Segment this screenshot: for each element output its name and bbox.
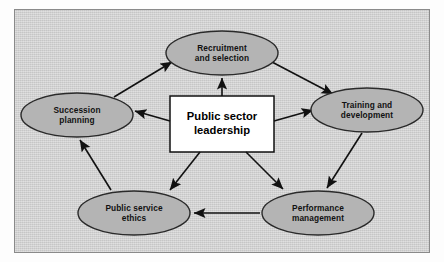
edge-center-to-performance [246,152,283,189]
center-box [170,96,274,152]
diagram-graphics [0,0,444,262]
edge-center-to-training [274,110,313,121]
node-ethics[interactable] [78,191,190,235]
edge-succession-to-recruitment [114,62,172,97]
node-training[interactable] [311,88,423,132]
edge-center-to-succession [135,111,170,121]
figure-canvas: Recruitment and selection Training and d… [0,0,444,262]
center-box-rect [170,96,274,152]
node-performance[interactable] [262,191,374,235]
edge-ethics-to-succession [80,140,111,190]
node-succession[interactable] [21,93,133,137]
node-recruitment[interactable] [166,31,278,75]
edge-training-to-performance [327,133,362,188]
edge-center-to-ethics [170,152,200,190]
edge-recruitment-to-training [272,62,333,94]
